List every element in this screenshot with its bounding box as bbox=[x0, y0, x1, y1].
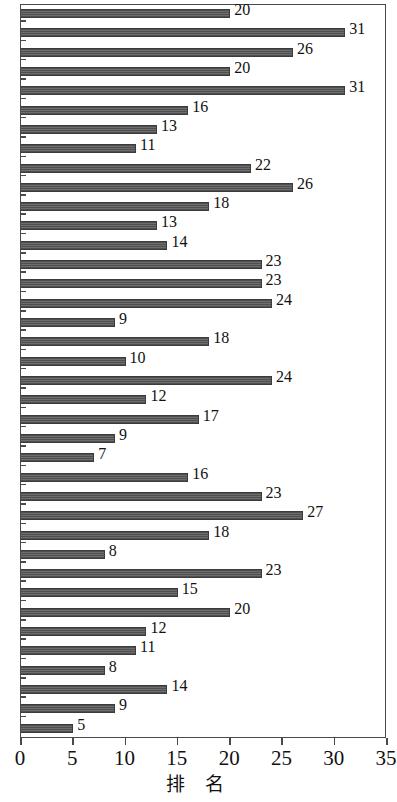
bar-row: 8 bbox=[21, 662, 385, 681]
x-axis-tick bbox=[281, 738, 283, 745]
bar bbox=[21, 569, 262, 578]
bar-row: 10 bbox=[21, 353, 385, 372]
bar-row: 20 bbox=[21, 63, 385, 82]
y-axis-tick bbox=[21, 20, 26, 22]
bar bbox=[21, 550, 105, 559]
bar-row: 20 bbox=[21, 5, 385, 24]
y-axis-tick bbox=[21, 465, 26, 467]
bar bbox=[21, 9, 230, 18]
bar-row: 22 bbox=[21, 160, 385, 179]
bar-value-label: 20 bbox=[234, 60, 250, 76]
bar bbox=[21, 704, 115, 713]
x-axis-tick-label: 10 bbox=[114, 746, 135, 770]
bar-row: 18 bbox=[21, 527, 385, 546]
bar-row: 26 bbox=[21, 179, 385, 198]
y-axis-tick bbox=[21, 542, 26, 544]
bar bbox=[21, 337, 209, 346]
y-axis-tick bbox=[21, 117, 26, 119]
bar-row: 23 bbox=[21, 256, 385, 275]
bar bbox=[21, 724, 73, 733]
bar bbox=[21, 415, 199, 424]
y-axis-tick bbox=[21, 387, 26, 389]
y-axis-tick bbox=[21, 368, 26, 370]
bar-row: 5 bbox=[21, 720, 385, 739]
bar-value-label: 15 bbox=[182, 581, 198, 597]
bar-row: 23 bbox=[21, 275, 385, 294]
bar bbox=[21, 376, 272, 385]
x-axis-tick-label: 35 bbox=[376, 746, 397, 770]
bar bbox=[21, 492, 262, 501]
bar-row: 16 bbox=[21, 102, 385, 121]
bar bbox=[21, 473, 188, 482]
y-axis-tick bbox=[21, 696, 26, 698]
bar-value-label: 18 bbox=[213, 330, 229, 346]
bar bbox=[21, 221, 157, 230]
bar-value-label: 8 bbox=[109, 659, 117, 675]
bar-row: 8 bbox=[21, 546, 385, 565]
y-axis-tick bbox=[21, 213, 26, 215]
bar bbox=[21, 28, 345, 37]
bar-value-label: 23 bbox=[266, 485, 282, 501]
bar-value-label: 24 bbox=[276, 369, 292, 385]
bar-row: 12 bbox=[21, 623, 385, 642]
y-axis-tick bbox=[21, 638, 26, 640]
y-axis-tick bbox=[21, 252, 26, 254]
x-axis-tick-label: 30 bbox=[323, 746, 344, 770]
bar-value-label: 26 bbox=[297, 176, 313, 192]
y-axis-tick bbox=[21, 523, 26, 525]
bar bbox=[21, 86, 345, 95]
bar-row: 13 bbox=[21, 217, 385, 236]
bar bbox=[21, 164, 251, 173]
bar-row: 9 bbox=[21, 700, 385, 719]
y-axis-tick bbox=[21, 445, 26, 447]
bar bbox=[21, 531, 209, 540]
bar-value-label: 13 bbox=[161, 118, 177, 134]
plot-area: 2031262031161311222618131423232491810241… bbox=[20, 4, 386, 738]
x-axis-tick-label: 25 bbox=[271, 746, 292, 770]
bar bbox=[21, 453, 94, 462]
bar-value-label: 5 bbox=[77, 717, 85, 733]
bar-row: 14 bbox=[21, 681, 385, 700]
bar bbox=[21, 241, 167, 250]
bar bbox=[21, 646, 136, 655]
x-axis-tick-label: 20 bbox=[219, 746, 240, 770]
bar-value-label: 16 bbox=[192, 466, 208, 482]
bar-chart: 2031262031161311222618131423232491810241… bbox=[0, 0, 397, 802]
bar bbox=[21, 106, 188, 115]
bar-value-label: 18 bbox=[213, 524, 229, 540]
bar-value-label: 27 bbox=[307, 504, 323, 520]
x-axis-ticks bbox=[20, 738, 386, 745]
bar-value-label: 8 bbox=[109, 543, 117, 559]
bar-value-label: 23 bbox=[266, 253, 282, 269]
bar-value-label: 18 bbox=[213, 195, 229, 211]
y-axis-tick bbox=[21, 329, 26, 331]
y-axis-tick bbox=[21, 580, 26, 582]
bar-value-label: 11 bbox=[140, 639, 155, 655]
bar-row: 14 bbox=[21, 237, 385, 256]
y-axis-tick bbox=[21, 175, 26, 177]
bar-value-label: 9 bbox=[119, 311, 127, 327]
bar bbox=[21, 357, 126, 366]
bar bbox=[21, 588, 178, 597]
x-axis-tick-label: 15 bbox=[166, 746, 187, 770]
x-axis-tick-labels: 05101520253035 bbox=[0, 746, 397, 772]
bar bbox=[21, 279, 262, 288]
y-axis-tick bbox=[21, 716, 26, 718]
bar-row: 11 bbox=[21, 140, 385, 159]
bar bbox=[21, 67, 230, 76]
bar bbox=[21, 608, 230, 617]
x-axis-tick bbox=[386, 738, 388, 745]
bar-value-label: 14 bbox=[171, 234, 187, 250]
bar bbox=[21, 318, 115, 327]
bar-value-label: 9 bbox=[119, 697, 127, 713]
bar-value-label: 24 bbox=[276, 292, 292, 308]
bar-value-label: 31 bbox=[349, 79, 365, 95]
x-axis-tick bbox=[20, 738, 22, 745]
y-axis-tick bbox=[21, 271, 26, 273]
bar-value-label: 13 bbox=[161, 214, 177, 230]
y-axis-tick bbox=[21, 40, 26, 42]
x-axis-tick bbox=[229, 738, 231, 745]
y-axis-tick bbox=[21, 349, 26, 351]
bar-row: 9 bbox=[21, 430, 385, 449]
y-axis-tick bbox=[21, 561, 26, 563]
